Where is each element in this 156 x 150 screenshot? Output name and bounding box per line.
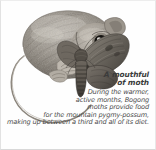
figure-card: A mouthful of moth During the warmer, ac… <box>0 0 156 150</box>
possum-moth-illustration <box>1 1 156 150</box>
